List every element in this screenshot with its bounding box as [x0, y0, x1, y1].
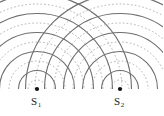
- source-label-s2-subscript: 2: [121, 101, 125, 109]
- wavefront-crest-arc: [102, 71, 139, 89]
- wavefront-crest-arc: [64, 33, 164, 89]
- wavefront-crest-arc: [0, 14, 113, 90]
- interference-figure: S1 S2: [0, 0, 163, 116]
- source-label-s2: S2: [114, 96, 124, 107]
- source-label-s1-subscript: 1: [38, 101, 42, 109]
- wavefront-crest-arc: [0, 32, 94, 89]
- wavefront-crest-arc: [19, 71, 56, 89]
- source-label-s1-main: S: [31, 95, 37, 107]
- source-point-s1: [35, 87, 39, 91]
- wavefront-canvas: [0, 0, 163, 116]
- wavefront-trough-arc: [92, 61, 148, 89]
- source-label-s1: S1: [31, 96, 41, 107]
- wavefronts-source-1: [0, 0, 132, 89]
- source-point-s2: [118, 87, 122, 91]
- source-dots: [35, 87, 122, 91]
- source-label-s2-main: S: [114, 95, 120, 107]
- wavefront-trough-arc: [9, 61, 65, 89]
